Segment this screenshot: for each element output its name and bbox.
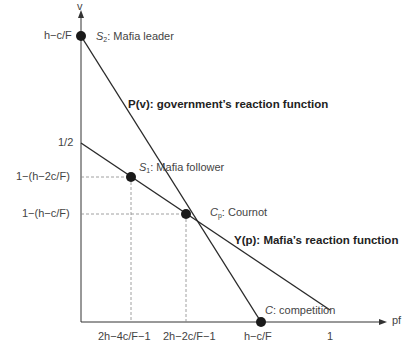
x-tick-label: 2h−2c/F−1 [163, 330, 216, 342]
y-tick-label: 1−(h−c/F) [22, 207, 70, 219]
point-cp [181, 209, 191, 219]
y-tick-label: 1/2 [58, 136, 73, 148]
point-label-cp: Cp: Cournot [210, 206, 267, 219]
point-c [256, 317, 266, 327]
government-reaction-line [81, 36, 261, 322]
x-tick-label: h−c/F [244, 330, 272, 342]
point-label-s2: S2: Mafia leader [96, 30, 174, 43]
x-axis-label: pf [392, 314, 401, 326]
y-tick-label: h−c/F [44, 29, 72, 41]
point-label-s1: S1: Mafia follower [139, 161, 224, 174]
y-axis-label: v [77, 0, 83, 12]
point-s1 [126, 172, 136, 182]
x-tick-label: 2h−4c/F−1 [98, 330, 151, 342]
government-curve-label: P(v): government’s reaction function [128, 98, 328, 110]
guide-lines [81, 177, 186, 322]
point-label-c: C: competition [265, 304, 335, 316]
x-tick-label: 1 [327, 330, 333, 342]
y-tick-label: 1−(h−2c/F) [16, 170, 70, 182]
x-axis-arrow-icon [379, 319, 387, 325]
mafia-curve-label: Y(p): Mafia’s reaction function [234, 234, 398, 246]
point-s2 [76, 31, 86, 41]
